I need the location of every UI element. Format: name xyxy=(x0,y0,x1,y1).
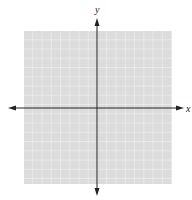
y-axis-bottom-arrow-icon xyxy=(95,188,100,196)
x-axis-left-arrow-icon xyxy=(8,106,16,111)
y-axis-top-arrow-icon xyxy=(95,18,100,26)
y-axis-label: y xyxy=(94,4,100,15)
x-axis-right-arrow-icon xyxy=(176,106,184,111)
coordinate-plane: y x xyxy=(0,0,192,200)
x-axis-label: x xyxy=(185,103,191,114)
